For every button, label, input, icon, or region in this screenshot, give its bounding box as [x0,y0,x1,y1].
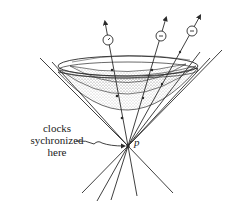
label-line-2: sychronized [22,134,92,146]
label-line-3: here [22,146,92,158]
label-line-1: clocks [22,122,92,134]
light-cone-diagram [0,0,235,211]
clocks-synchronized-label: clocks sychronized here [22,122,92,158]
hyperboloids [58,55,198,110]
event-p-label: p [134,136,140,148]
clocks [103,26,197,45]
